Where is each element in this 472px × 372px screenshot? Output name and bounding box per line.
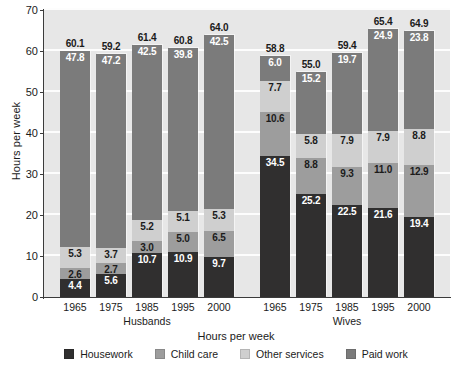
bar-total-label: 59.4 <box>328 40 366 51</box>
bar-segment-other-services[interactable]: 3.7 <box>96 248 126 263</box>
y-tick-label: 40 <box>8 128 38 138</box>
segment-value-label: 15.2 <box>296 73 326 84</box>
segment-value-label: 8.8 <box>296 159 326 170</box>
segment-value-label: 47.8 <box>60 52 90 63</box>
bar-segment-paid-work[interactable]: 23.8 <box>404 31 434 129</box>
bar-segment-housework[interactable]: 25.2 <box>296 194 326 297</box>
bar-segment-paid-work[interactable]: 15.2 <box>296 72 326 134</box>
x-axis-label: Hours per week <box>0 330 472 342</box>
bar-husbands-2000[interactable]: 9.76.55.342.564.0 <box>204 35 234 297</box>
legend-swatch-icon <box>155 349 165 359</box>
x-tick-label: 1985 <box>327 301 367 313</box>
bar-segment-child-care[interactable]: 6.5 <box>204 231 234 258</box>
segment-value-label: 25.2 <box>296 195 326 206</box>
legend-label: Child care <box>171 348 218 360</box>
bar-wives-1965[interactable]: 34.510.67.76.058.8 <box>260 56 290 297</box>
bar-segment-child-care[interactable]: 5.0 <box>168 232 198 253</box>
bar-segment-child-care[interactable]: 9.3 <box>332 167 362 205</box>
segment-value-label: 10.6 <box>260 113 290 124</box>
legend-label: Other services <box>256 348 324 360</box>
x-tick-label: 2000 <box>199 301 239 313</box>
segment-value-label: 42.5 <box>204 36 234 47</box>
bar-segment-other-services[interactable]: 5.2 <box>132 220 162 241</box>
bar-segment-other-services[interactable]: 8.8 <box>404 129 434 165</box>
bar-segment-child-care[interactable]: 11.0 <box>368 163 398 208</box>
segment-value-label: 34.5 <box>260 157 290 168</box>
x-tick-label: 1995 <box>163 301 203 313</box>
bar-segment-child-care[interactable]: 3.0 <box>132 241 162 253</box>
bar-total-label: 65.4 <box>364 16 402 27</box>
segment-value-label: 10.9 <box>168 253 198 264</box>
segment-value-label: 24.9 <box>368 30 398 41</box>
bar-segment-housework[interactable]: 4.4 <box>60 279 90 297</box>
segment-value-label: 11.0 <box>368 164 398 175</box>
bar-segment-paid-work[interactable]: 47.8 <box>60 51 90 247</box>
bar-segment-housework[interactable]: 34.5 <box>260 156 290 297</box>
bar-segment-child-care[interactable]: 8.8 <box>296 158 326 194</box>
plot-area: 4.42.65.347.860.15.62.73.747.259.210.73.… <box>44 10 450 297</box>
x-tick-label: 2000 <box>399 301 439 313</box>
bar-segment-housework[interactable]: 22.5 <box>332 205 362 297</box>
segment-value-label: 5.8 <box>296 135 326 146</box>
bar-segment-other-services[interactable]: 7.7 <box>260 81 290 113</box>
legend-item-other-services[interactable]: Other services <box>240 348 324 360</box>
bar-segment-child-care[interactable]: 10.6 <box>260 112 290 155</box>
bar-segment-child-care[interactable]: 2.7 <box>96 263 126 274</box>
y-tick-label: 10 <box>8 251 38 261</box>
legend-item-housework[interactable]: Housework <box>64 348 133 360</box>
y-axis-ticks: 010203040506070 <box>0 0 44 297</box>
legend-item-paid-work[interactable]: Paid work <box>346 348 408 360</box>
bar-total-label: 64.0 <box>200 22 238 33</box>
y-tick-label: 0 <box>8 292 38 302</box>
bar-segment-child-care[interactable]: 2.6 <box>60 268 90 279</box>
bar-segment-housework[interactable]: 5.6 <box>96 274 126 297</box>
segment-value-label: 21.6 <box>368 209 398 220</box>
bar-segment-housework[interactable]: 21.6 <box>368 208 398 297</box>
bar-total-label: 60.8 <box>164 35 202 46</box>
bar-segment-housework[interactable]: 10.9 <box>168 252 198 297</box>
bar-segment-paid-work[interactable]: 47.2 <box>96 54 126 248</box>
segment-value-label: 3.7 <box>96 249 126 260</box>
segment-value-label: 42.5 <box>132 46 162 57</box>
segment-value-label: 22.5 <box>332 206 362 217</box>
segment-value-label: 6.0 <box>260 57 290 68</box>
bar-total-label: 55.0 <box>292 59 330 70</box>
bar-segment-housework[interactable]: 9.7 <box>204 257 234 297</box>
segment-value-label: 5.1 <box>168 212 198 223</box>
bar-segment-other-services[interactable]: 5.3 <box>60 247 90 269</box>
chart-legend: HouseworkChild careOther servicesPaid wo… <box>0 348 472 360</box>
bar-segment-other-services[interactable]: 5.8 <box>296 134 326 158</box>
bar-husbands-1985[interactable]: 10.73.05.242.561.4 <box>132 45 162 297</box>
bar-wives-1985[interactable]: 22.59.37.919.759.4 <box>332 53 362 297</box>
bar-segment-paid-work[interactable]: 42.5 <box>204 35 234 209</box>
bar-segment-paid-work[interactable]: 6.0 <box>260 56 290 81</box>
bar-husbands-1975[interactable]: 5.62.73.747.259.2 <box>96 54 126 297</box>
legend-item-child-care[interactable]: Child care <box>155 348 218 360</box>
segment-value-label: 39.8 <box>168 49 198 60</box>
legend-swatch-icon <box>64 349 74 359</box>
bar-segment-housework[interactable]: 10.7 <box>132 253 162 297</box>
bar-segment-other-services[interactable]: 5.1 <box>168 211 198 232</box>
segment-value-label: 12.9 <box>404 166 434 177</box>
bar-segment-other-services[interactable]: 7.9 <box>368 131 398 163</box>
segment-value-label: 4.4 <box>60 280 90 291</box>
x-tick-label: 1975 <box>91 301 131 313</box>
bar-wives-1995[interactable]: 21.611.07.924.965.4 <box>368 29 398 297</box>
segment-value-label: 47.2 <box>96 55 126 66</box>
bar-segment-other-services[interactable]: 5.3 <box>204 209 234 231</box>
segment-value-label: 6.5 <box>204 232 234 243</box>
bar-segment-paid-work[interactable]: 39.8 <box>168 48 198 211</box>
x-axis-line <box>43 297 451 298</box>
bar-wives-2000[interactable]: 19.412.98.823.864.9 <box>404 31 434 297</box>
segment-value-label: 5.2 <box>132 221 162 232</box>
bar-segment-paid-work[interactable]: 19.7 <box>332 53 362 134</box>
bar-wives-1975[interactable]: 25.28.85.815.255.0 <box>296 72 326 298</box>
bar-segment-paid-work[interactable]: 42.5 <box>132 45 162 219</box>
bar-husbands-1995[interactable]: 10.95.05.139.860.8 <box>168 48 198 297</box>
bar-segment-child-care[interactable]: 12.9 <box>404 165 434 218</box>
bar-husbands-1965[interactable]: 4.42.65.347.860.1 <box>60 51 90 297</box>
bar-segment-other-services[interactable]: 7.9 <box>332 134 362 166</box>
y-tick-label: 60 <box>8 46 38 56</box>
bar-segment-paid-work[interactable]: 24.9 <box>368 29 398 131</box>
bar-segment-housework[interactable]: 19.4 <box>404 217 434 297</box>
